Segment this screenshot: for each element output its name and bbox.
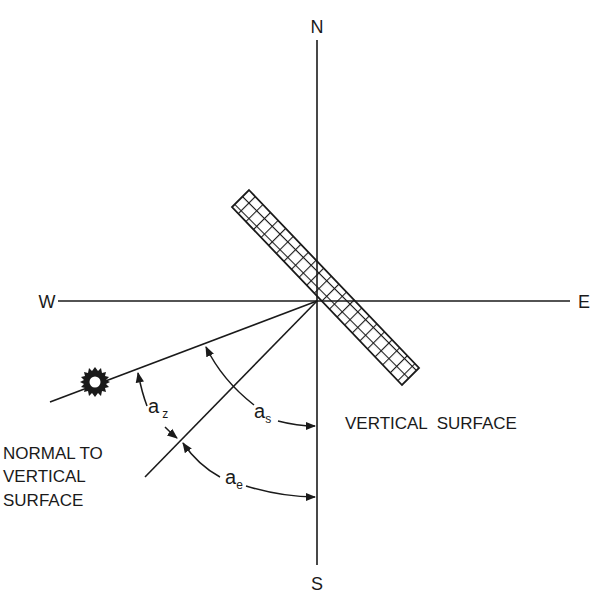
vertical-surface-bar <box>232 190 419 385</box>
west-label: W <box>39 292 56 312</box>
angle-ae-arc-lower <box>246 486 315 497</box>
normal-caption-line2: VERTICAL <box>3 467 86 486</box>
north-label: N <box>311 17 324 37</box>
normal-caption: NORMAL TO VERTICAL SURFACE <box>3 444 103 510</box>
normal-caption-line3: SURFACE <box>3 491 83 510</box>
east-label: E <box>578 292 590 312</box>
south-label: S <box>311 574 323 594</box>
angle-ae-label: ae <box>225 466 243 492</box>
angle-az-arc-lower <box>165 427 177 438</box>
normal-caption-line1: NORMAL TO <box>3 444 103 463</box>
angle-as-label: as <box>254 400 271 426</box>
angle-as-arc-upper <box>206 347 254 405</box>
surface-normal-line <box>145 301 317 477</box>
angle-az-arc-upper <box>138 373 147 406</box>
sun-surface-azimuth-diagram: N S W E as az ae VERTICAL SURFACE NORMAL… <box>0 0 610 601</box>
vertical-surface-caption: VERTICAL SURFACE <box>345 414 517 433</box>
sun-icon <box>80 367 110 397</box>
angle-as-arc-lower <box>278 421 315 426</box>
angle-az-label: az <box>148 395 168 421</box>
angle-ae-arc-upper <box>183 443 220 477</box>
